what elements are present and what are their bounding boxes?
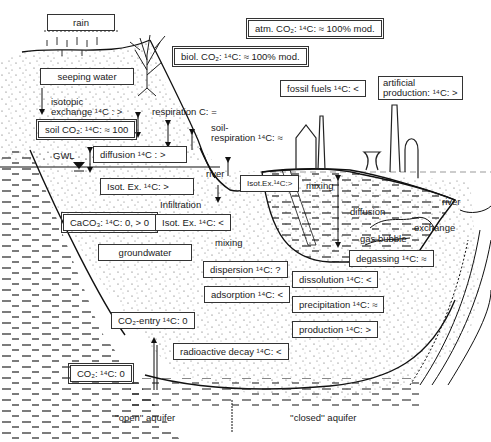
river-right-label: river xyxy=(442,196,460,207)
river-left-label: river xyxy=(206,168,224,179)
rain-label: rain xyxy=(47,14,115,31)
open-aquifer-label: ''open'' aquifer xyxy=(115,412,175,423)
dissolution-label: dissolution ¹⁴C: < xyxy=(292,271,378,288)
isotopic-exchange-label-2: exchange ¹⁴C : > xyxy=(51,106,122,117)
chimney-icon xyxy=(296,105,400,172)
respiration-label: respiration C: = xyxy=(152,106,217,117)
isot-ex-gt-label: Isot. Ex. ¹⁴C: > xyxy=(100,178,194,195)
isot-ex-lake-label: Isot.Ex.¹⁴C:> xyxy=(240,175,299,192)
gwl-label: GWL xyxy=(53,150,75,161)
soil-respiration-label-2: respiration ¹⁴C: ≈ xyxy=(211,132,283,143)
hydrological-carbon-diagram: rain atm. CO₂: ¹⁴C: ≈ 100% mod. biol. CO… xyxy=(0,0,491,442)
mixing-mid-label: mixing xyxy=(215,237,242,248)
fossil-fuels-label: fossil fuels ¹⁴C: < xyxy=(280,80,366,97)
artificial-production-line-2: production: ¹⁴C: > xyxy=(383,88,458,98)
co2-bottom-label: CO₂: ¹⁴C: 0 xyxy=(70,365,132,382)
adsorption-label: adsorption ¹⁴C: < xyxy=(204,286,290,303)
isot-ex-lt-label: Isot. Ex. ¹⁴C: < xyxy=(155,214,231,231)
radioactive-decay-label: radioactive decay ¹⁴C: < xyxy=(173,343,289,360)
biol-co2-label: biol. CO₂: ¹⁴C: ≈ 100% mod. xyxy=(174,48,307,65)
dispersion-label: dispersion ¹⁴C: ? xyxy=(203,261,288,278)
artificial-production-label: artificial production: ¹⁴C: > xyxy=(378,76,463,100)
gas-bubble-label: gas bubble xyxy=(360,233,406,244)
co2-entry-label: CO₂-entry ¹⁴C: 0 xyxy=(111,312,195,329)
soil-co2-label: soil CO₂: ¹⁴C: ≈ 100 xyxy=(38,121,135,138)
diffusion-lake-label: diffusion xyxy=(350,206,385,217)
atm-co2-label: atm. CO₂: ¹⁴C: ≈ 100% mod. xyxy=(248,20,382,37)
groundwater-label: groundwater xyxy=(98,244,192,261)
seeping-water-label: seeping water xyxy=(40,68,134,85)
production-label: production ¹⁴C: > xyxy=(292,321,378,338)
degassing-label: degassing ¹⁴C: ≈ xyxy=(349,250,434,267)
diffusion-top-label: diffusion ¹⁴C : > xyxy=(93,146,187,163)
closed-aquifer-label: ''closed'' aquifer xyxy=(290,412,356,423)
infiltration-label: Infiltration xyxy=(160,199,201,210)
mixing-lake-label: mixing xyxy=(306,180,333,191)
precipitation-label: precipitation ¹⁴C: ≈ xyxy=(292,296,384,313)
exchange-label: exchange xyxy=(414,222,455,233)
caco3-label: CaCO₃: ¹⁴C: 0, > 0 xyxy=(63,214,156,231)
